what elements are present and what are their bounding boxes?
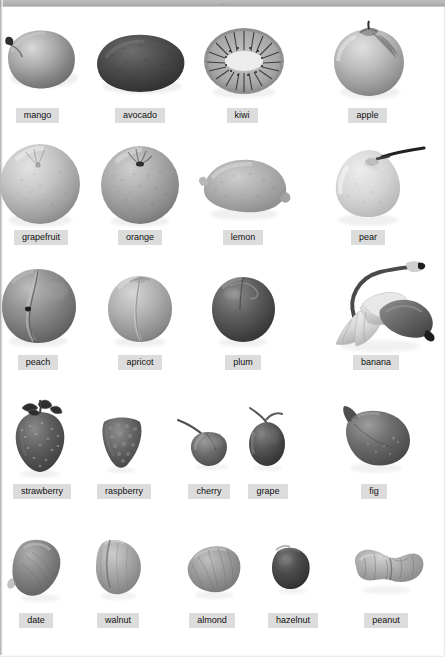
item-cell-lemon: [196, 152, 294, 224]
item-cell-grapefruit: [0, 140, 88, 228]
label-wrap: strawberry: [8, 480, 76, 499]
label-wrap: grape: [242, 480, 294, 499]
label-wrap: plum: [216, 351, 270, 370]
item-cell-kiwi: [198, 24, 290, 100]
label-wrap: raspberry: [92, 480, 156, 499]
item-label-apple: apple: [348, 108, 386, 123]
apricot-icon: [104, 272, 178, 348]
orange-icon: [98, 142, 184, 228]
item-label-cherry: cherry: [188, 484, 229, 499]
label-wrap: almond: [182, 609, 242, 628]
cherry-icon: [176, 412, 240, 472]
item-cell-hazelnut: [268, 544, 316, 596]
banana-icon: [322, 258, 444, 354]
item-cell-strawberry: [8, 396, 74, 478]
item-cell-avocado: [88, 24, 194, 98]
item-cell-fig: [334, 404, 418, 474]
item-label-peach: peach: [18, 355, 59, 370]
raspberry-icon: [96, 410, 148, 474]
plum-icon: [208, 274, 280, 348]
item-cell-peach: [0, 265, 84, 349]
hazelnut-icon: [268, 544, 316, 596]
label-wrap: orange: [110, 226, 170, 245]
item-label-fig: fig: [361, 484, 387, 499]
avocado-icon: [88, 24, 194, 98]
item-cell-plum: [208, 274, 280, 348]
item-cell-peanut: [348, 544, 426, 596]
item-cell-apple: [326, 20, 412, 102]
item-label-peanut: peanut: [364, 613, 408, 628]
label-wrap: peanut: [357, 609, 415, 628]
item-label-apricot: apricot: [118, 355, 161, 370]
peach-icon: [0, 265, 84, 349]
label-wrap: mango: [10, 104, 65, 123]
item-label-mango: mango: [16, 108, 60, 123]
item-cell-banana: [322, 258, 444, 354]
grapefruit-icon: [0, 140, 88, 228]
label-wrap: hazelnut: [262, 609, 324, 628]
item-label-lemon: lemon: [223, 230, 264, 245]
label-wrap: apricot: [110, 351, 170, 370]
label-wrap: apple: [339, 104, 396, 123]
item-label-raspberry: raspberry: [97, 484, 151, 499]
apple-icon: [326, 20, 412, 102]
item-cell-walnut: [88, 534, 150, 602]
label-wrap: cherry: [182, 480, 236, 499]
item-label-date: date: [19, 613, 53, 628]
item-label-grapefruit: grapefruit: [14, 230, 68, 245]
item-cell-date: [6, 534, 76, 604]
item-cell-grape: [244, 406, 292, 472]
label-wrap: peach: [10, 351, 66, 370]
item-cell-raspberry: [96, 410, 148, 474]
item-label-orange: orange: [118, 230, 162, 245]
item-label-banana: banana: [353, 355, 399, 370]
item-label-pear: pear: [351, 230, 385, 245]
label-wrap: walnut: [90, 609, 146, 628]
pear-icon: [320, 140, 432, 228]
label-wrap: pear: [341, 226, 395, 245]
item-label-plum: plum: [225, 355, 261, 370]
mango-icon: [0, 22, 84, 100]
lemon-icon: [196, 152, 294, 224]
item-cell-almond: [182, 540, 248, 600]
item-label-almond: almond: [189, 613, 235, 628]
label-wrap: fig: [350, 480, 398, 499]
item-label-hazelnut: hazelnut: [268, 613, 318, 628]
label-wrap: banana: [345, 351, 407, 370]
item-cell-apricot: [104, 272, 178, 348]
label-wrap: date: [11, 609, 61, 628]
peanut-icon: [348, 544, 426, 596]
kiwi-icon: [198, 24, 290, 100]
item-label-grape: grape: [248, 484, 287, 499]
almond-icon: [182, 540, 248, 600]
item-label-avocado: avocado: [115, 108, 165, 123]
label-wrap: kiwi: [214, 104, 270, 123]
item-label-walnut: walnut: [97, 613, 139, 628]
page-header-mark: ...: [220, 1, 226, 6]
item-cell-mango: [0, 22, 84, 100]
item-cell-pear: [320, 140, 432, 228]
reference-plate-page: ...: [0, 0, 445, 657]
strawberry-icon: [8, 396, 74, 478]
item-cell-orange: [98, 142, 184, 228]
item-label-strawberry: strawberry: [13, 484, 71, 499]
label-wrap: grapefruit: [8, 226, 74, 245]
item-label-kiwi: kiwi: [227, 108, 258, 123]
date-icon: [6, 534, 76, 604]
fig-icon: [334, 404, 418, 474]
grape-icon: [244, 406, 292, 472]
label-wrap: avocado: [108, 104, 172, 123]
item-cell-cherry: [176, 412, 240, 472]
label-wrap: lemon: [214, 226, 272, 245]
walnut-icon: [88, 534, 150, 602]
